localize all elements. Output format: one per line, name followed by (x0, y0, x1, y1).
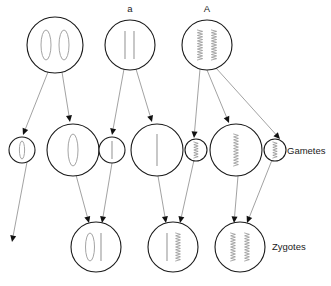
parent-cell-3[interactable] (182, 20, 232, 70)
arrow-parent2-to-gamete3-head (110, 128, 116, 135)
arrow-parent3-to-gamete6 (207, 70, 229, 123)
gamete-cell-2-chromosome-1 (68, 134, 78, 166)
arrow-gamete1-to-void (10, 162, 27, 242)
parent-cell-2[interactable] (105, 20, 155, 70)
zygote-cell-1[interactable] (71, 222, 121, 272)
arrow-gamete5-to-zygote2 (178, 160, 194, 223)
gamete-cell-1-chromosome-1 (19, 141, 24, 159)
arrow-gamete4-to-zygote2 (158, 176, 168, 223)
gametes-row-label: Gametes (287, 145, 326, 156)
arrow-parent2-to-gamete3-shaft (113, 69, 124, 129)
arrow-gamete3-to-zygote1 (100, 163, 112, 223)
arrow-parent3-to-gamete5-head (192, 131, 198, 138)
arrow-parent3-to-gamete6-shaft (207, 70, 227, 117)
zygote-cell-3-outline[interactable] (215, 222, 265, 272)
arrow-parent2-to-gamete4-shaft (136, 69, 150, 116)
arrow-gamete2-to-zygote1-shaft (76, 175, 87, 217)
parent-cell-2-outline[interactable] (105, 20, 155, 70)
gamete-cell-6[interactable] (210, 124, 262, 176)
zygote-cell-2-outline[interactable] (148, 222, 198, 272)
arrow-gamete2-to-zygote1-head (84, 216, 90, 223)
arrow-gamete1-to-void-head (10, 235, 16, 242)
arrow-gamete4-to-zygote2-shaft (158, 176, 165, 217)
arrow-parent1-to-gamete2-shaft (62, 72, 69, 116)
zygote-cell-1-chromosome-1 (86, 233, 95, 261)
gamete-cell-4[interactable] (131, 124, 183, 176)
inheritance-diagram: a A Gametes Zygotes (0, 0, 331, 286)
gamete-cell-2[interactable] (47, 124, 99, 176)
gamete-cell-5[interactable] (185, 139, 207, 161)
arrow-parent2-to-gamete4-head (147, 115, 153, 122)
arrow-gamete6-to-zygote3 (232, 176, 238, 223)
zygote-cell-2[interactable] (148, 222, 198, 272)
gamete-cell-1[interactable] (9, 137, 35, 163)
zygotes-row-label: Zygotes (272, 241, 306, 252)
zygote-cell-3[interactable] (215, 222, 265, 272)
parent-cell-3-outline[interactable] (182, 20, 232, 70)
arrow-parent2-to-gamete4 (136, 69, 153, 122)
arrow-gamete4-to-zygote2-head (162, 216, 168, 223)
parent-cell-1-chromosome-2 (59, 30, 69, 60)
meiosis-diagram-root: a A Gametes Zygotes (0, 0, 331, 286)
allele-label-A: A (204, 3, 211, 14)
arrow-parent1-to-gamete2 (62, 72, 72, 122)
arrow-parent3-to-gamete7-shaft (216, 68, 276, 134)
arrow-gamete6-to-zygote3-shaft (235, 176, 238, 217)
gamete-cell-7[interactable] (264, 139, 286, 161)
arrow-parent1-to-gamete1 (23, 72, 48, 135)
arrow-gamete1-to-void-shaft (13, 162, 27, 236)
arrow-gamete2-to-zygote1 (76, 175, 90, 223)
arrow-gamete5-to-zygote2-shaft (181, 160, 194, 217)
arrow-gamete5-to-zygote2-head (178, 216, 184, 223)
allele-label-a: a (127, 3, 133, 14)
arrow-parent1-to-gamete2-head (66, 115, 72, 122)
arrow-parent3-to-gamete5-shaft (195, 69, 200, 132)
arrow-gamete3-to-zygote1-shaft (103, 163, 112, 217)
zygote-cell-1-outline[interactable] (71, 222, 121, 272)
gamete-cell-3[interactable] (99, 137, 125, 163)
arrow-parent3-to-gamete5 (192, 69, 200, 138)
gamete-cell-6-outline[interactable] (210, 124, 262, 176)
arrow-parent2-to-gamete3 (110, 69, 124, 135)
cells-layer (9, 17, 286, 272)
parent-cell-1-outline[interactable] (27, 17, 83, 73)
parent-cell-1-chromosome-1 (41, 30, 51, 60)
parent-cell-1[interactable] (27, 17, 83, 73)
arrow-parent1-to-gamete1-shaft (25, 72, 48, 129)
